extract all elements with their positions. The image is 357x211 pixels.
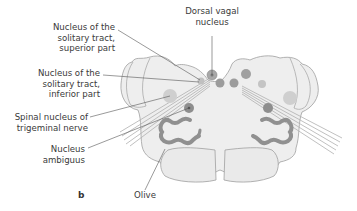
nts-nucleus-right [258, 80, 266, 88]
label-nucleus-ambiguus: Nucleus ambiguus [30, 144, 85, 165]
label-dorsal-vagal: Dorsal vagal nucleus [180, 6, 244, 27]
dorsal-vagal-nucleus-right [241, 69, 251, 79]
nucleus-ambiguus-right [263, 103, 273, 113]
nts-nucleus-left [198, 78, 205, 85]
label-spinal-trigeminal: Spinal nucleus of trigeminal nerve [6, 112, 88, 133]
spinal-trigeminal-nucleus-right [283, 91, 297, 105]
label-olive: Olive [128, 190, 162, 201]
label-nts-superior: Nucleus of the solitary tract, superior … [44, 22, 115, 54]
medulla-diagram: Nucleus of the solitary tract, superior … [0, 0, 357, 211]
panel-letter: b [78, 190, 84, 200]
hypoglossal-nucleus-right [230, 79, 239, 88]
hypoglossal-nucleus-left [216, 79, 225, 88]
label-nts-inferior: Nucleus of the solitary tract, inferior … [30, 68, 100, 100]
